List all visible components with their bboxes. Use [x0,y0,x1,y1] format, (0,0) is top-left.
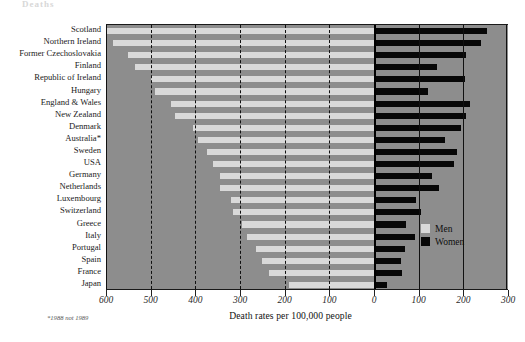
category-label: Scotland [0,25,101,34]
axis-tick-label: 300 [501,295,515,305]
bar-row [106,185,508,191]
category-label: Switzerland [0,206,101,215]
bar-row [106,282,508,288]
category-label: Hungary [0,86,101,95]
bar-women [374,221,406,227]
bar-men [135,64,374,70]
category-label: France [0,267,101,276]
legend-label-women: Women [435,237,464,247]
bar-row [106,101,508,107]
bar-men [207,149,375,155]
bar-men [193,125,374,131]
gridline-zero [374,25,376,289]
gridline [285,25,286,289]
bar-men [289,282,374,288]
category-label: USA [0,158,101,167]
legend-item-men: Men [421,222,493,235]
bar-women [374,173,432,179]
chart-root: Deaths ScotlandNorthern IrelandFormer Cz… [0,0,525,342]
bar-men [220,185,374,191]
bar-women [374,234,415,240]
legend-item-women: Women [421,235,493,248]
category-label: Spain [0,255,101,264]
bar-women [374,282,387,288]
gridline [240,25,241,289]
bar-row [106,161,508,167]
gridline [195,25,196,289]
bar-men [247,234,374,240]
bar-women [374,197,416,203]
bar-row [106,209,508,215]
gridline [329,25,330,289]
category-label: Sweden [0,146,101,155]
bar-women [374,149,457,155]
bar-women [374,52,466,58]
bar-men [171,101,374,107]
bar-men [262,258,374,264]
bar-men [256,246,374,252]
plot-inner [106,25,508,289]
category-label: Finland [0,61,101,70]
category-label: Former Czechoslovakia [0,49,101,58]
category-label: Denmark [0,122,101,131]
bar-men [231,197,374,203]
plot-area [106,24,508,290]
bar-women [374,246,405,252]
bar-rows [106,25,508,289]
legend-label-men: Men [435,224,452,234]
legend-swatch-men-icon [421,224,430,233]
category-label: Germany [0,170,101,179]
category-label: Netherlands [0,182,101,191]
bar-row [106,64,508,70]
bar-row [106,40,508,46]
axis-tick-label: 500 [144,295,158,305]
legend: Men Women [421,222,493,248]
axis-tick-label: 100 [412,295,426,305]
bar-women [374,258,401,264]
gridline [463,25,464,289]
bar-men [213,161,374,167]
bar-women [374,185,439,191]
category-label: Japan [0,279,101,288]
bar-men [128,52,374,58]
axis-tick-label: 600 [99,295,113,305]
axis-tick-label: 200 [456,295,470,305]
gridline [419,25,420,289]
axis-tick-label: 100 [322,295,336,305]
bar-men [175,113,374,119]
bar-women [374,270,402,276]
bar-women [374,101,470,107]
bar-men [233,209,374,215]
category-label: Italy [0,231,101,240]
bar-row [106,197,508,203]
category-label: New Zealand [0,110,101,119]
bar-men [151,76,374,82]
bar-women [374,161,454,167]
bar-row [106,28,508,34]
bar-row [106,173,508,179]
category-label: Greece [0,219,101,228]
axis-title-text: Death rates per 100,000 people [229,310,352,321]
bar-row [106,52,508,58]
bar-row [106,76,508,82]
category-label: Republic of Ireland [0,73,101,82]
bar-row [106,88,508,94]
bar-women [374,64,437,70]
bar-men [198,137,374,143]
axis-tick-label: 300 [233,295,247,305]
axis-tick-label: 400 [188,295,202,305]
gridline [151,25,152,289]
bar-row [106,137,508,143]
category-label: Australia* [0,134,101,143]
category-label: Portugal [0,243,101,252]
axis-tick-label: 0 [372,295,377,305]
category-label: Northern Ireland [0,37,101,46]
bar-row [106,270,508,276]
bar-men [242,221,374,227]
bar-women [374,40,481,46]
bar-men [113,40,374,46]
bar-men [220,173,374,179]
plot-border [106,25,107,289]
chart-title-fragment: Deaths [22,0,118,8]
axis-tick-labels: 6005004003002001000100200300 [0,295,525,309]
